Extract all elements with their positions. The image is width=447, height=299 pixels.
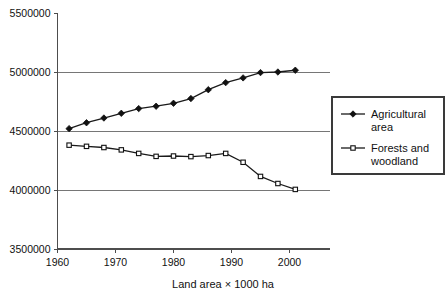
data-point-marker (206, 153, 210, 157)
data-point-marker (153, 103, 159, 109)
data-point-marker (67, 143, 71, 147)
y-axis-tick-labels: 35000004000000450000050000005500000 (10, 7, 51, 255)
data-point-marker (276, 181, 280, 185)
axes (54, 13, 331, 253)
data-point-marker (258, 174, 262, 178)
x-tick-label: 2000 (278, 256, 302, 268)
data-point-marker (118, 110, 124, 116)
data-point-marker (137, 151, 141, 155)
data-point-marker (351, 146, 355, 150)
data-point-marker (293, 187, 297, 191)
line-chart: 35000004000000450000050000005500000 1960… (0, 0, 447, 299)
legend-label: area (371, 121, 394, 133)
series-2 (67, 143, 298, 192)
data-point-marker (170, 100, 176, 106)
data-point-marker (154, 154, 158, 158)
y-tick-label: 4000000 (10, 184, 51, 196)
data-point-marker (189, 154, 193, 158)
data-point-marker (101, 115, 107, 121)
data-point-marker (223, 79, 229, 85)
x-axis-tick-labels: 19601970198019902000 (46, 256, 302, 268)
x-tick-label: 1980 (162, 256, 186, 268)
data-point-marker (275, 69, 281, 75)
series-1 (66, 67, 299, 132)
chart-legend: AgriculturalareaForests andwoodland (332, 97, 444, 174)
data-point-marker (171, 154, 175, 158)
legend-label: woodland (370, 155, 418, 167)
x-tick-label: 1970 (104, 256, 128, 268)
data-point-marker (102, 145, 106, 149)
data-point-marker (83, 120, 89, 126)
data-point-marker (257, 69, 263, 75)
data-point-marker (224, 151, 228, 155)
data-point-marker (136, 105, 142, 111)
x-tick-label: 1960 (46, 256, 70, 268)
series-line (69, 145, 295, 189)
y-tick-label: 3500000 (10, 243, 51, 255)
x-axis-title: Land area × 1000 ha (172, 278, 275, 290)
data-point-marker (241, 160, 245, 164)
chart-container: 35000004000000450000050000005500000 1960… (0, 0, 447, 299)
y-tick-label: 5000000 (10, 66, 51, 78)
data-point-marker (240, 75, 246, 81)
data-series (66, 67, 299, 192)
legend-label: Agricultural (371, 108, 426, 120)
data-point-marker (188, 95, 194, 101)
data-point-marker (205, 87, 211, 93)
legend-label: Forests and (371, 142, 429, 154)
y-tick-label: 4500000 (10, 125, 51, 137)
x-tick-label: 1990 (220, 256, 244, 268)
y-tick-label: 5500000 (10, 7, 51, 19)
data-point-marker (84, 144, 88, 148)
data-point-marker (119, 148, 123, 152)
